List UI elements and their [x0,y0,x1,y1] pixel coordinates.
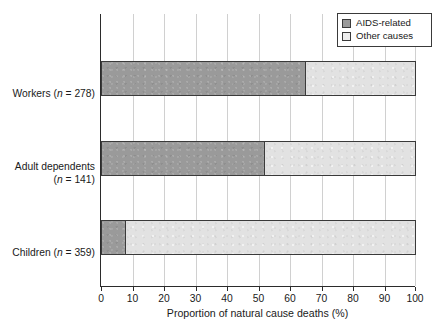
category-label-text: Children ( [12,247,57,258]
x-tick-mark [101,287,102,291]
bar-segment-aids-related[interactable] [101,220,126,255]
x-axis-title-wrapper: Proportion of natural cause deaths (%) [0,307,437,319]
bar-segment-other-causes[interactable] [305,61,416,96]
category-label-adult-dependents: Adult dependents (n = 141) [0,147,95,186]
bar-row-adult-dependents [101,141,416,176]
x-tick-mark [290,287,291,291]
bar-segment-other-causes[interactable] [264,141,416,176]
x-tick-mark [259,287,260,291]
x-tick-mark [353,287,354,291]
bar-segment-aids-related[interactable] [101,141,265,176]
legend: AIDS-related Other causes [337,13,432,47]
x-tick-mark [133,287,134,291]
legend-item-aids-related[interactable]: AIDS-related [342,17,427,29]
category-label-children: Children (n = 359) [0,233,95,259]
sample-size-value: = 278) [63,88,95,99]
legend-swatch-other-causes-icon [342,32,351,41]
x-tick-mark [227,287,228,291]
bar-row-workers [101,61,416,96]
legend-label: AIDS-related [356,17,411,29]
plot-area: 0 10 20 30 40 50 60 70 80 90 100 [100,14,415,287]
bar-segment-aids-related[interactable] [101,61,306,96]
bar-segment-other-causes[interactable] [125,220,416,255]
legend-label: Other causes [356,30,413,42]
x-tick-mark [385,287,386,291]
stacked-bar-chart-figure: 0 10 20 30 40 50 60 70 80 90 100 Workers… [0,0,437,331]
sample-size-value: = 141) [63,174,95,185]
bar-row-children [101,220,416,255]
x-tick-mark [164,287,165,291]
x-tick-mark [196,287,197,291]
category-label-text: Workers ( [12,88,56,99]
x-axis-title: Proportion of natural cause deaths (%) [89,307,348,319]
x-tick-mark [322,287,323,291]
x-tick-label: 100 [395,293,435,304]
sample-size-value: = 359) [63,247,95,258]
category-label-workers: Workers (n = 278) [0,74,95,100]
legend-swatch-aids-related-icon [342,19,351,28]
x-tick-mark [415,287,416,291]
legend-item-other-causes[interactable]: Other causes [342,30,427,42]
